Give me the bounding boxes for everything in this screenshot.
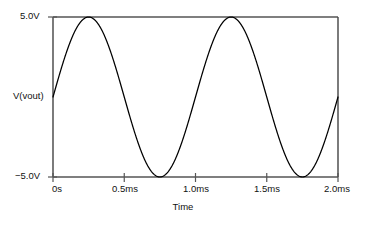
y-axis-max-label: 5.0V [20,11,40,21]
waveform-trace [53,17,338,177]
y-axis-title: V(vout) [13,91,44,101]
x-tick-label-2: 1.0ms [183,184,209,194]
x-tick-label-4: 2.0ms [324,184,350,194]
x-axis-title: Time [0,202,366,212]
x-tick-label-1: 0.5ms [112,184,138,194]
waveform-plot: 5.0V −5.0V V(vout) 0s 0.5ms 1.0ms 1.5ms … [0,0,366,226]
x-tick-label-0: 0s [52,184,62,194]
y-axis-min-label: −5.0V [15,171,40,181]
x-tick-label-3: 1.5ms [254,184,280,194]
